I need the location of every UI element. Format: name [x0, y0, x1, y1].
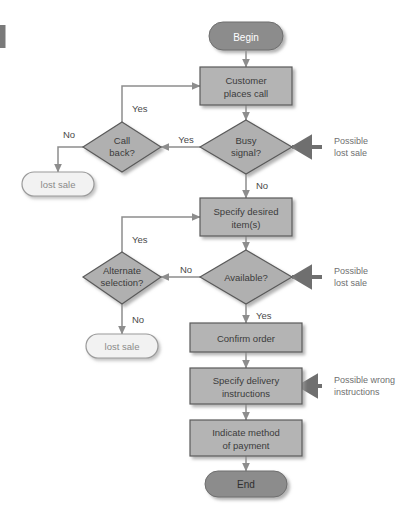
node-customer-line1: Customer: [225, 75, 266, 86]
node-alternate-line1: Alternate: [103, 265, 141, 276]
node-lost-sale-2-label: lost sale: [105, 341, 140, 352]
node-delivery-line1: Specify delivery: [213, 375, 280, 386]
flowchart-canvas: Begin Customer places call Busy signal? …: [0, 0, 414, 515]
flowchart-svg: Begin Customer places call Busy signal? …: [0, 0, 414, 515]
annot-delivery-line2: instructions: [334, 387, 380, 397]
node-callback-line2: back?: [109, 147, 134, 158]
edge-label-callback-no: No: [63, 129, 75, 140]
node-busy-line1: Busy: [235, 135, 256, 146]
node-payment-line1: Indicate method: [212, 427, 280, 438]
node-customer-places-call[interactable]: Customer places call: [200, 67, 292, 105]
node-delivery-line2: instructions: [222, 388, 270, 399]
node-available-label: Available?: [224, 272, 268, 283]
edge-label-callback-yes: Yes: [132, 103, 148, 114]
edge-label-busy-no: No: [256, 180, 268, 191]
annot-delivery-line1: Possible wrong: [334, 375, 395, 385]
node-specify-desired-items[interactable]: Specify desired item(s): [200, 198, 292, 236]
edge-label-alternate-yes: Yes: [132, 234, 148, 245]
node-customer-line2: places call: [224, 88, 268, 99]
node-lost-sale-1-label: lost sale: [41, 179, 76, 190]
edge-label-alternate-no: No: [132, 314, 144, 325]
node-end-label: End: [237, 479, 255, 490]
annot-busy-line1: Possible: [334, 136, 368, 146]
node-specifyitems-line2: item(s): [231, 219, 260, 230]
annot-busy-line2: lost sale: [334, 148, 367, 158]
node-indicate-method-of-payment[interactable]: Indicate method of payment: [190, 420, 302, 456]
edge-callback-no-to-lostsale1: [58, 147, 83, 172]
annot-available-line1: Possible: [334, 266, 368, 276]
node-end[interactable]: End: [205, 471, 287, 497]
node-lost-sale-1[interactable]: lost sale: [22, 172, 94, 196]
node-lost-sale-2[interactable]: lost sale: [86, 334, 158, 358]
node-specifyitems-line1: Specify desired: [214, 206, 279, 217]
left-margin-bar: [0, 25, 6, 48]
annotation-group: Possible lost sale Possible lost sale Po…: [334, 136, 395, 397]
node-available[interactable]: Available?: [200, 250, 292, 304]
node-payment-line2: of payment: [223, 440, 270, 451]
node-confirm-order[interactable]: Confirm order: [190, 323, 302, 352]
edge-label-available-yes: Yes: [256, 310, 272, 321]
annot-available-line2: lost sale: [334, 278, 367, 288]
node-alternate-selection[interactable]: Alternate selection?: [83, 252, 161, 304]
node-call-back[interactable]: Call back?: [83, 122, 161, 172]
connector-group: [58, 51, 246, 471]
edge-label-busy-yes: Yes: [178, 134, 194, 145]
node-callback-line1: Call: [114, 135, 130, 146]
node-busy-signal[interactable]: Busy signal?: [200, 120, 292, 174]
node-confirm-label: Confirm order: [217, 333, 275, 344]
node-busy-line2: signal?: [231, 147, 261, 158]
node-begin-label: Begin: [233, 32, 259, 43]
edge-label-available-no: No: [180, 264, 192, 275]
node-alternate-line2: selection?: [101, 277, 144, 288]
node-specify-delivery-instructions[interactable]: Specify delivery instructions: [190, 368, 302, 404]
node-begin[interactable]: Begin: [209, 22, 283, 50]
